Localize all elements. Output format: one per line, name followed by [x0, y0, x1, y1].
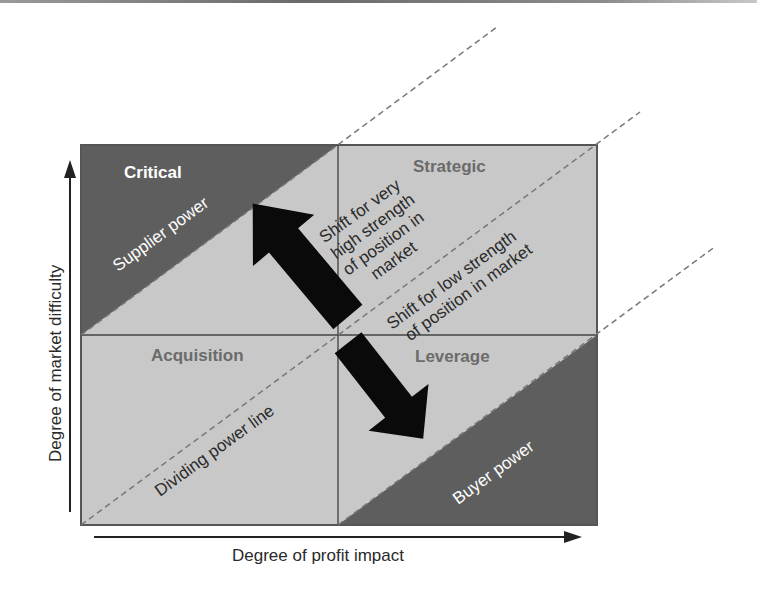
y-axis-arrowhead-icon: [64, 160, 76, 178]
portfolio-matrix-diagram: Critical Strategic Acquisition Leverage …: [0, 0, 757, 595]
quadrant-title-acquisition: Acquisition: [151, 346, 244, 365]
x-axis-label: Degree of profit impact: [232, 546, 404, 565]
y-axis-label: Degree of market difficulty: [46, 264, 65, 462]
quadrant-title-strategic: Strategic: [413, 157, 486, 176]
x-axis-arrowhead-icon: [564, 531, 582, 543]
quadrant-title-leverage: Leverage: [415, 347, 490, 366]
quadrant-title-critical: Critical: [124, 163, 182, 182]
